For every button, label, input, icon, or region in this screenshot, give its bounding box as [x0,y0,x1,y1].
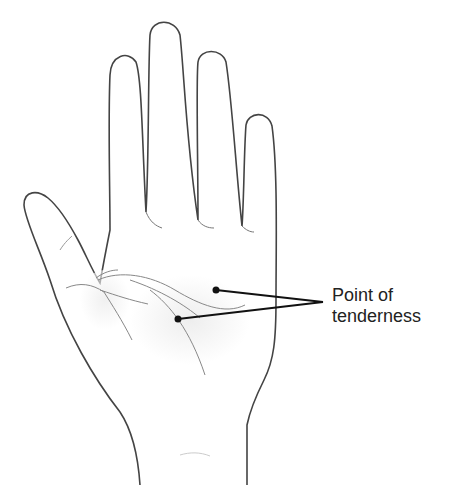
label-line-1: Point of [332,285,421,306]
annotation-label: Point of tenderness [332,285,421,327]
tender-point-dot-1 [213,287,220,294]
hand-illustration [0,0,453,485]
tender-point-dot-2 [175,316,182,323]
hand-outline [24,22,276,485]
label-line-2: tenderness [332,306,421,327]
